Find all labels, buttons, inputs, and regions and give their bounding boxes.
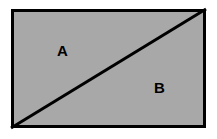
rectangle-shape [11, 9, 206, 128]
region-label-a: A [57, 43, 68, 58]
figure-canvas: A B [0, 0, 217, 139]
region-label-b: B [154, 80, 165, 95]
